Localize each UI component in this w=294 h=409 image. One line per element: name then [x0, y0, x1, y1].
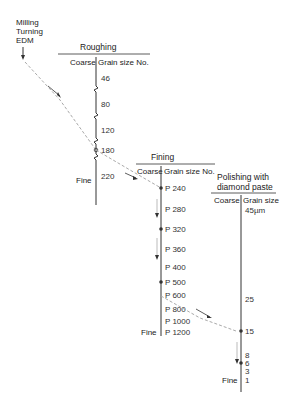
- fining-value-p1200: P 1200: [165, 328, 191, 337]
- fining-value-p600: P 600: [165, 291, 186, 300]
- fining-marker: [159, 227, 163, 231]
- fining-title: Fining: [151, 152, 174, 162]
- down-arrow-icon: [235, 359, 239, 364]
- polishing-title-line2: diamond paste: [217, 182, 273, 192]
- fining-value-p360: P 360: [165, 245, 186, 254]
- source-line-milling: Milling: [16, 18, 39, 27]
- polishing-marker: [239, 361, 243, 365]
- roughing-fine-label: Fine: [76, 176, 92, 185]
- fining-grain-label: Grain size No.: [164, 167, 215, 176]
- fining-value-p400: P 400: [165, 263, 186, 272]
- polishing-value-25: 25: [245, 295, 254, 304]
- source-line-edm: EDM: [16, 36, 34, 45]
- source-label: Milling Turning EDM: [16, 18, 43, 60]
- fining-marker: [159, 186, 163, 190]
- fining-value-p800: P 800: [165, 305, 186, 314]
- roughing-value-80: 80: [101, 100, 110, 109]
- arrowhead-icon: [21, 55, 25, 60]
- fining-value-p1000: P 1000: [165, 317, 191, 326]
- roughing-coarse-label: Coarse: [70, 58, 96, 67]
- polishing-section: Polishing with diamond paste Coarse Grai…: [211, 172, 280, 392]
- fining-value-p320: P 320: [165, 225, 186, 234]
- polishing-title-line1: Polishing with: [217, 172, 269, 182]
- roughing-value-46: 46: [101, 74, 110, 83]
- polishing-value-3: 3: [245, 367, 250, 376]
- roughing-axis: [94, 57, 98, 205]
- polishing-grain-label: Grain size: [243, 196, 280, 205]
- polishing-marker: [239, 329, 243, 333]
- source-line-turning: Turning: [16, 27, 43, 36]
- dashed-path-source-to-roughing: [25, 62, 96, 150]
- polishing-coarse-label: Coarse: [214, 196, 240, 205]
- roughing-grain-label: Grain size No.: [98, 58, 149, 67]
- arrowhead-icon: [133, 176, 138, 180]
- arrowhead-icon: [207, 315, 212, 318]
- polishing-value-45um: 45µm: [245, 206, 266, 215]
- fining-marker: [159, 280, 163, 284]
- down-arrow-icon: [155, 255, 159, 260]
- polishing-value-1: 1: [245, 376, 250, 385]
- roughing-value-120: 120: [101, 126, 115, 135]
- roughing-value-220: 220: [101, 172, 115, 181]
- fining-value-p280: P 280: [165, 205, 186, 214]
- fining-value-p240: P 240: [165, 184, 186, 193]
- polishing-fine-label: Fine: [222, 376, 238, 385]
- fining-coarse-label: Coarse: [137, 167, 163, 176]
- roughing-section: Roughing Coarse Grain size No. 46 80 120…: [58, 42, 150, 205]
- roughing-title: Roughing: [80, 42, 117, 52]
- fining-value-p500: P 500: [165, 278, 186, 287]
- down-arrow-icon: [155, 213, 159, 218]
- grinding-process-diagram: Milling Turning EDM Roughing Coarse Grai…: [0, 0, 294, 409]
- polishing-value-15: 15: [245, 327, 254, 336]
- fining-section: Fining Coarse Grain size No. P 240 P 280…: [136, 152, 215, 337]
- fining-fine-label: Fine: [141, 328, 157, 337]
